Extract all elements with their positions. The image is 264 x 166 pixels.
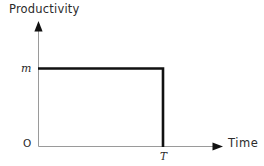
productivity-step-curve xyxy=(38,69,163,148)
arrow-right-icon xyxy=(213,142,224,150)
chart-canvas xyxy=(0,0,264,166)
productivity-time-step-chart: Productivity Time m O T xyxy=(0,0,264,166)
origin-label: O xyxy=(23,138,31,149)
x-tick-label-T: T xyxy=(160,151,167,162)
y-tick-label-m: m xyxy=(21,63,31,74)
y-axis-label: Productivity xyxy=(9,4,80,16)
x-axis-label: Time xyxy=(228,138,259,150)
arrow-up-icon xyxy=(34,21,42,32)
